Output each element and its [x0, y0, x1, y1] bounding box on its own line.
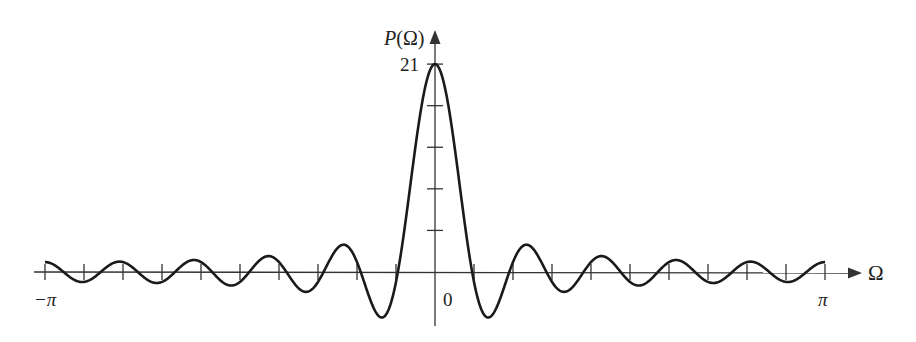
origin-label: 0 — [443, 290, 453, 309]
x-axis-label: Ω — [868, 263, 884, 284]
chart-plot — [0, 0, 916, 342]
x-tick-label-neg-pi: −π — [34, 290, 56, 309]
y-tick-label-21: 21 — [400, 55, 419, 74]
y-axis-arrow-icon — [430, 30, 441, 44]
y-axis-label-p: P — [384, 27, 396, 49]
y-axis-label: P(Ω) — [384, 28, 424, 48]
x-tick-label-pi: π — [818, 290, 828, 309]
x-axis-arrow-icon — [848, 268, 862, 279]
y-axis-label-rest: (Ω) — [396, 27, 424, 49]
